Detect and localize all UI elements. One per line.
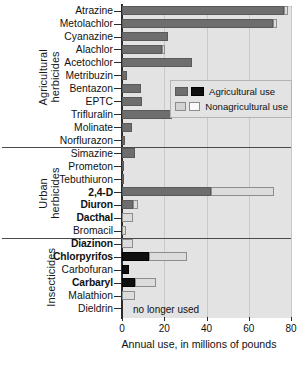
x-tick-label-40: 40 [192, 323, 222, 334]
bar-segment-nonagricultural [284, 6, 288, 15]
bar-row [122, 200, 138, 209]
y-tick [114, 179, 121, 180]
y-tick [114, 11, 121, 12]
legend: Agricultural use Nonagricultural use [170, 80, 292, 118]
bar-segment-agricultural [122, 45, 162, 54]
bar-row [122, 187, 274, 196]
y-tick [114, 308, 121, 309]
x-tick [207, 317, 208, 321]
category-label-diazinon: Diazinon [13, 239, 113, 250]
bar-row [122, 6, 288, 15]
bar-segment-agricultural [122, 97, 142, 106]
category-label-chlorpyrifos: Chlorpyrifos [13, 252, 113, 263]
bar-segment-nonagricultural [211, 187, 274, 196]
y-tick [114, 49, 121, 50]
bar-row [122, 71, 127, 80]
group-separator [2, 238, 291, 239]
bar-row [122, 136, 125, 145]
y-tick [114, 37, 121, 38]
legend-swatch-black-icon [191, 87, 204, 96]
legend-swatch-gray-icon [175, 87, 188, 96]
bar-segment-nonagricultural [273, 19, 277, 28]
x-tick [291, 317, 292, 321]
y-tick [114, 270, 121, 271]
bar-segment-agricultural [122, 123, 132, 132]
category-label-malathion: Malathion [13, 291, 113, 302]
x-tick [122, 317, 123, 321]
x-tick-label-80: 80 [276, 323, 306, 334]
group-separator [2, 147, 291, 148]
bar-segment-agricultural [122, 6, 284, 15]
group-label-insecticides: Insecticides [46, 239, 60, 317]
y-tick [114, 166, 121, 167]
legend-swatch-white-icon [189, 102, 200, 111]
bar-row [122, 32, 168, 41]
bar-segment-nonagricultural [122, 226, 126, 235]
y-tick [114, 244, 121, 245]
y-tick [114, 218, 121, 219]
y-tick [114, 75, 121, 76]
bar-row [122, 291, 135, 300]
bar-segment-nonagricultural [122, 291, 135, 300]
gridline-40 [207, 7, 208, 318]
annotation-no-longer-used: no longer used [133, 304, 199, 315]
bar-segment-agricultural [122, 265, 129, 274]
bar-row [122, 239, 133, 248]
bar-row [122, 161, 123, 170]
bar-row [122, 110, 172, 119]
bar-segment-agricultural [122, 32, 168, 41]
bar-row [122, 19, 277, 28]
x-axis-title: Annual use, in millions of pounds [92, 338, 306, 350]
y-tick [114, 296, 121, 297]
gridline-80 [291, 7, 292, 318]
bar-segment-agricultural [122, 187, 211, 196]
bar-segment-agricultural [122, 174, 124, 183]
bar-row [122, 265, 129, 274]
bar-segment-nonagricultural [122, 213, 133, 222]
gridline-60 [249, 7, 250, 318]
bar-segment-nonagricultural [149, 252, 187, 261]
group-label-urban-herbicides: Urban herbicides [38, 148, 66, 239]
y-tick [114, 127, 121, 128]
bar-row [122, 278, 156, 287]
y-tick [114, 192, 121, 193]
bar-segment-agricultural [122, 278, 135, 287]
bar-segment-agricultural [122, 58, 192, 67]
bar-segment-agricultural [122, 71, 127, 80]
bar-row [122, 97, 142, 106]
y-tick [114, 24, 121, 25]
legend-item-agricultural: Agricultural use [175, 84, 288, 99]
bar-segment-nonagricultural [135, 278, 156, 287]
y-tick [114, 88, 121, 89]
bar-row [122, 148, 135, 157]
y-tick [114, 62, 121, 63]
bar-segment-agricultural [122, 161, 124, 170]
category-label-carbofuran: Carbofuran [13, 265, 113, 276]
group-label-agricultural-herbicides: Agricultural herbicides [38, 6, 66, 148]
bar-row [122, 213, 133, 222]
bar-segment-agricultural [122, 110, 172, 119]
bar-segment-agricultural [122, 136, 125, 145]
y-tick [114, 231, 121, 232]
bar-segment-agricultural [122, 200, 133, 209]
bar-segment-agricultural [122, 148, 135, 157]
bar-row [122, 174, 123, 183]
x-tick-label-20: 20 [149, 323, 179, 334]
bar-segment-nonagricultural [162, 45, 165, 54]
bar-row [122, 58, 192, 67]
category-label-dieldrin: Dieldrin [13, 304, 113, 315]
legend-label-nonagricultural: Nonagricultural use [205, 102, 288, 112]
bar-segment-nonagricultural [133, 200, 138, 209]
y-tick [114, 101, 121, 102]
bar-segment-agricultural [122, 252, 149, 261]
y-tick [114, 114, 121, 115]
category-label-carbaryl: Carbaryl [13, 278, 113, 289]
y-tick [114, 140, 121, 141]
y-tick [114, 283, 121, 284]
bar-segment-agricultural [122, 84, 141, 93]
pesticide-use-bar-chart: no longer used AtrazineMetolachlorCyanaz… [0, 0, 306, 380]
bar-row [122, 45, 165, 54]
x-tick [249, 317, 250, 321]
bar-row [122, 123, 132, 132]
bar-segment-nonagricultural [122, 239, 133, 248]
